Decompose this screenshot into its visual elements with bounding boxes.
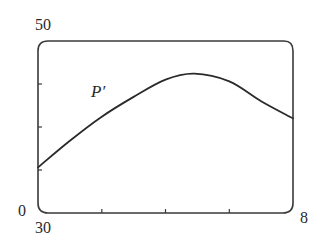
series-line-p-prime bbox=[38, 74, 293, 168]
y-max-label: 50 bbox=[35, 16, 51, 34]
chart-plot bbox=[0, 0, 318, 240]
x-min-label: 0 bbox=[18, 202, 26, 220]
x-max-label: 8 bbox=[300, 209, 308, 227]
chart-frame bbox=[38, 41, 293, 213]
series-label-p-prime: P′ bbox=[91, 82, 105, 102]
y-min-label: 30 bbox=[35, 219, 51, 237]
